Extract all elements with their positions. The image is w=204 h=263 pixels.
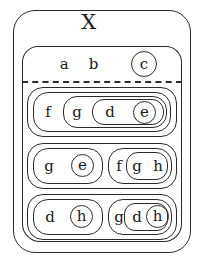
- element-b: b: [89, 57, 99, 72]
- singleton-h-row3-left-circle: h: [70, 205, 93, 228]
- element-g-row2-right: g: [130, 159, 144, 174]
- singleton-h-row3-right-circle: h: [146, 205, 169, 228]
- element-f-row2-right: f: [112, 159, 126, 174]
- singleton-e-row2-circle: e: [71, 154, 94, 177]
- element-e-row1: e: [140, 105, 149, 120]
- element-h-row3-left: h: [77, 209, 87, 224]
- universe-label: X: [0, 12, 178, 33]
- element-h-row3-right: h: [153, 209, 163, 224]
- element-g-row1: g: [70, 105, 84, 120]
- element-d-row3-right: d: [130, 210, 144, 225]
- element-g-row3-right: g: [112, 210, 126, 225]
- element-f-row1: f: [41, 105, 55, 120]
- element-d-row1: d: [103, 105, 117, 120]
- top-region-items: a b: [22, 46, 182, 82]
- element-c: c: [140, 57, 148, 72]
- element-a: a: [60, 57, 69, 72]
- element-h-row2-right: h: [151, 159, 165, 174]
- element-g-row2-left: g: [42, 159, 56, 174]
- set-diagram: X a b c f g d e g e f g h d h g d h: [0, 0, 204, 263]
- singleton-e-row1-circle: e: [133, 101, 156, 124]
- element-e-row2: e: [78, 158, 87, 173]
- singleton-c-circle: c: [131, 51, 157, 77]
- element-d-row3-left: d: [43, 210, 57, 225]
